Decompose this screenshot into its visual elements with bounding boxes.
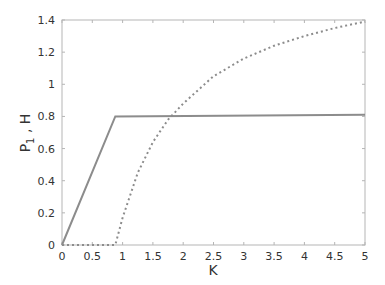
y-tick-label: 0: [48, 239, 55, 252]
x-tick-label: 0: [59, 250, 66, 263]
y-tick-label: 0.6: [38, 143, 56, 156]
x-tick-label: 0.5: [84, 250, 102, 263]
x-tick-label: 3.5: [265, 250, 283, 263]
x-tick-label: 1: [119, 250, 126, 263]
x-tick-label: 5: [362, 250, 369, 263]
y-tick-label: 0.8: [38, 110, 56, 123]
y-tick-label: 0.4: [38, 175, 56, 188]
chart: 00.511.522.533.544.55 00.20.40.60.811.21…: [0, 0, 385, 285]
x-tick-label: 4: [301, 250, 308, 263]
x-tick-label: 2: [180, 250, 187, 263]
x-tick-label: 3: [240, 250, 247, 263]
y-tick-label: 1: [48, 78, 55, 91]
plot-area: [62, 20, 365, 245]
x-tick-label: 1.5: [144, 250, 162, 263]
y-tick-label: 0.2: [38, 207, 56, 220]
x-axis-label: K: [208, 262, 218, 278]
y-tick-label: 1.4: [38, 14, 56, 27]
y-tick-label: 1.2: [38, 46, 56, 59]
y-axis-label: P1 , H: [17, 114, 36, 153]
x-tick-label: 4.5: [326, 250, 344, 263]
